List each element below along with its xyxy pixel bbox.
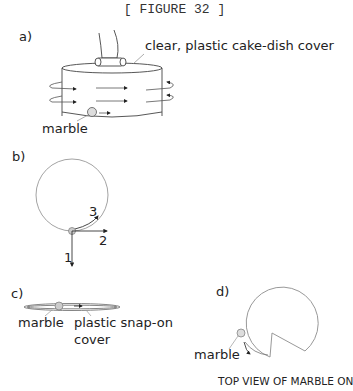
cake-dish-callout: clear, plastic cake-dish cover	[145, 38, 334, 53]
hand-icon	[95, 30, 126, 66]
callout-line	[133, 54, 144, 64]
marble-a	[88, 108, 97, 117]
circle-path-b	[36, 159, 108, 231]
panel-c-label: c)	[11, 286, 23, 301]
marble-d	[237, 329, 245, 337]
marble-label-a: marble	[42, 121, 88, 136]
rotation-arrows-left	[50, 82, 76, 102]
panel-a-label: a)	[19, 29, 32, 44]
snap-on-cover	[24, 304, 120, 311]
arrow-label-2: 2	[99, 233, 107, 248]
arrow-label-3: 3	[89, 204, 97, 219]
rotation-arrows-right	[146, 82, 173, 102]
cover-label-line2: cover	[74, 332, 110, 347]
panel-d-label: d)	[216, 284, 229, 299]
arrow-label-1: 1	[64, 250, 72, 265]
velocity-arrows	[96, 88, 127, 113]
cover-label-line1: plastic snap-on	[74, 315, 173, 330]
top-view-caption: TOP VIEW OF MARBLE ON	[218, 375, 353, 387]
panel-b-label: b)	[12, 149, 25, 164]
cover-top-view	[245, 287, 318, 357]
marble-label-c: marble	[18, 315, 64, 330]
marble-label-d: marble	[194, 347, 240, 362]
marble-c	[55, 302, 63, 310]
